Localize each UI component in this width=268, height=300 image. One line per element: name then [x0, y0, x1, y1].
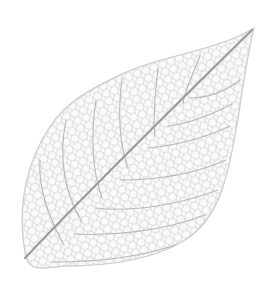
- leaf-shape: [0, 0, 268, 300]
- skeleton-leaf-image: [0, 0, 268, 300]
